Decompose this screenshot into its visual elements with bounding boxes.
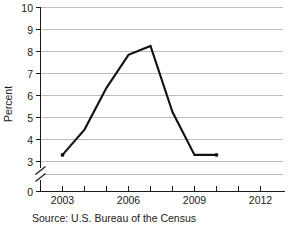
y-tick-label-0: 0 xyxy=(27,186,33,198)
line-chart: 10 9 8 7 6 5 4 3 0 Percent xyxy=(0,0,290,231)
x-tick-label-2006: 2006 xyxy=(117,194,141,206)
y-tick-label-8: 8 xyxy=(27,46,33,58)
x-tick-label-2012: 2012 xyxy=(249,194,273,206)
y-tick-label-4: 4 xyxy=(27,134,33,146)
y-tick-label-9: 9 xyxy=(27,24,33,36)
y-tick-label-10: 10 xyxy=(21,2,33,14)
data-series xyxy=(61,46,219,157)
x-tick-labels: 2003 2006 2009 2012 xyxy=(51,194,273,206)
x-tick-label-2003: 2003 xyxy=(51,194,75,206)
series-line-percent xyxy=(63,46,217,155)
x-tick-marks xyxy=(63,186,261,191)
x-tick-label-2009: 2009 xyxy=(183,194,207,206)
y-tick-label-5: 5 xyxy=(27,112,33,124)
y-tick-label-3: 3 xyxy=(27,156,33,168)
y-tick-labels: 10 9 8 7 6 5 4 3 0 xyxy=(21,2,33,198)
data-point xyxy=(215,153,219,157)
source-note: Source: U.S. Bureau of the Census xyxy=(32,212,196,224)
chart-container: 10 9 8 7 6 5 4 3 0 Percent xyxy=(0,0,290,231)
gridlines xyxy=(41,8,284,175)
data-point xyxy=(61,153,65,157)
y-tick-label-6: 6 xyxy=(27,90,33,102)
y-axis xyxy=(36,7,46,192)
y-axis-title: Percent xyxy=(2,86,14,122)
y-tick-label-7: 7 xyxy=(27,68,33,80)
